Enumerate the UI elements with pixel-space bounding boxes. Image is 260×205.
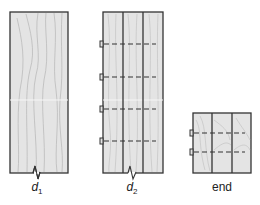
panel-end — [190, 113, 251, 173]
fastener-head-icon — [190, 130, 193, 136]
panel-d2 — [100, 12, 163, 179]
fastener-head-icon — [100, 138, 103, 144]
label-end: end — [202, 180, 242, 194]
label-d2: d2 — [112, 180, 152, 196]
label-end-text: end — [212, 180, 232, 194]
timber-diagram — [0, 0, 260, 205]
fastener-head-icon — [190, 149, 193, 155]
fastener-head-icon — [100, 106, 103, 112]
label-d1: d1 — [17, 180, 57, 196]
panel-d1 — [10, 12, 68, 179]
label-d1-sub: 1 — [38, 187, 42, 196]
fastener-head-icon — [100, 74, 103, 80]
label-d2-sub: 2 — [133, 187, 137, 196]
fastener-head-icon — [100, 41, 103, 47]
